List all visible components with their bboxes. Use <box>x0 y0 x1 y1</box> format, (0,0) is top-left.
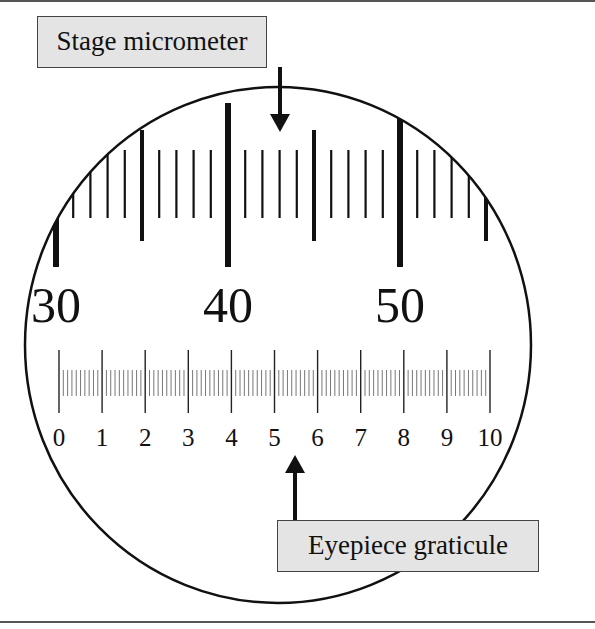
stage-micrometer-label: Stage micrometer <box>37 16 267 68</box>
graticule-number-label: 8 <box>398 424 411 451</box>
stage-micrometer-numbers: 304050 <box>31 277 425 333</box>
graticule-number-label: 0 <box>53 424 66 451</box>
bottom-border-rule <box>0 621 595 623</box>
graticule-number-label: 4 <box>225 424 238 451</box>
pointer-arrows <box>270 67 305 520</box>
arrow-down-icon <box>270 114 290 132</box>
graticule-number-label: 3 <box>182 424 195 451</box>
graticule-number-label: 1 <box>96 424 109 451</box>
graticule-number-label: 2 <box>139 424 152 451</box>
graticule-number-label: 5 <box>268 424 281 451</box>
graticule-number-label: 6 <box>311 424 324 451</box>
stage-number-label: 40 <box>203 277 253 333</box>
graticule-number-label: 9 <box>441 424 454 451</box>
eyepiece-graticule-label: Eyepiece graticule <box>277 520 539 572</box>
eyepiece-graticule-numbers: 012345678910 <box>53 424 503 451</box>
stage-number-label: 50 <box>375 277 425 333</box>
graticule-number-label: 7 <box>354 424 367 451</box>
graticule-number-label: 10 <box>478 424 503 451</box>
eyepiece-graticule-scale <box>59 350 490 413</box>
stage-number-label: 30 <box>31 277 81 333</box>
arrow-up-icon <box>285 455 305 473</box>
